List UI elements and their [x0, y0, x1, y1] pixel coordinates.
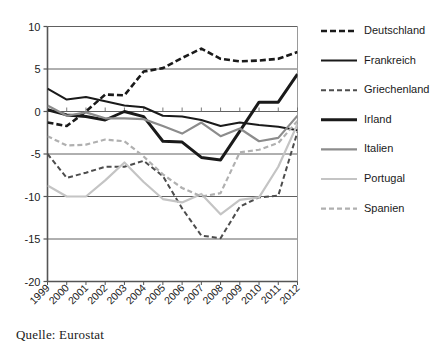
legend-label-spanien: Spanien [364, 202, 404, 214]
x-tick-label-2007: 2007 [181, 281, 206, 306]
y-tick-label--15: -15 [25, 233, 41, 245]
x-tick-label-2001: 2001 [65, 281, 90, 306]
x-tick-label-2010: 2010 [238, 281, 263, 306]
x-tick-label-2000: 2000 [46, 281, 71, 306]
x-tick-label-2004: 2004 [123, 281, 148, 306]
line-chart-svg: 1050-5-10-15-201999200020012002200320042… [0, 0, 441, 352]
legend-label-frankreich: Frankreich [364, 54, 416, 66]
chart-figure: 1050-5-10-15-201999200020012002200320042… [0, 0, 441, 352]
legend-label-portugal: Portugal [364, 172, 405, 184]
x-tick-label-2002: 2002 [85, 281, 110, 306]
y-tick-label-0: 0 [34, 106, 40, 118]
x-tick-label-2011: 2011 [258, 281, 283, 306]
y-tick-label--5: -5 [31, 148, 41, 160]
legend: DeutschlandFrankreichGriechenlandIrlandI… [321, 24, 429, 214]
legend-label-irland: Irland [364, 113, 392, 125]
source-note: Quelle: Eurostat [16, 327, 104, 343]
y-tick-label--10: -10 [25, 191, 41, 203]
y-axis-ticks: 1050-5-10-15-20 [25, 21, 48, 288]
x-tick-label-2005: 2005 [142, 281, 167, 306]
legend-label-griechenland: Griechenland [364, 83, 429, 95]
x-tick-label-2008: 2008 [200, 281, 225, 306]
x-tick-label-2006: 2006 [162, 281, 187, 306]
x-tick-label-2003: 2003 [104, 281, 129, 306]
x-axis-labels: 1999200020012002200320042005200620072008… [27, 281, 302, 306]
x-tick-label-2009: 2009 [219, 281, 244, 306]
legend-label-deutschland: Deutschland [364, 24, 425, 36]
y-tick-label-10: 10 [28, 21, 40, 33]
x-tick-label-2012: 2012 [277, 281, 302, 306]
legend-label-italien: Italien [364, 142, 393, 154]
y-tick-label-5: 5 [34, 63, 40, 75]
